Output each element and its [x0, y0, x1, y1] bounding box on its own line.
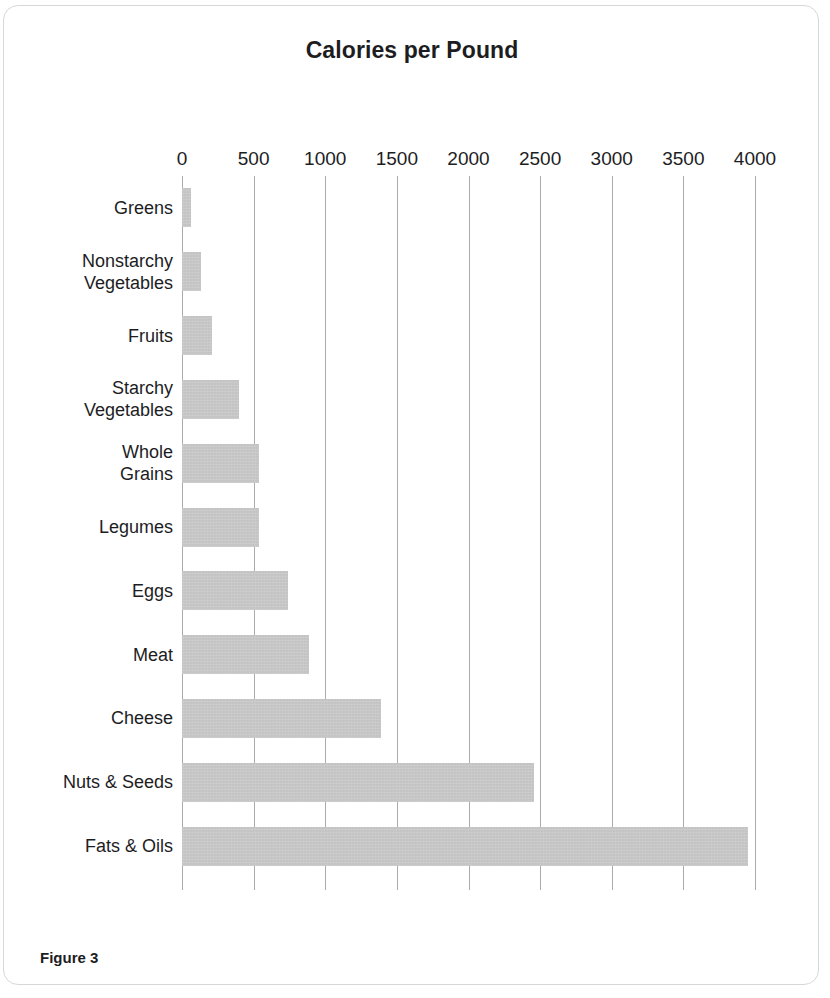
y-axis-category-label-line: Greens	[13, 197, 173, 219]
y-axis-category-label: Cheese	[13, 707, 173, 729]
y-axis-category-label-line: Nonstarchy	[13, 250, 173, 272]
y-axis-category-label: Fruits	[13, 325, 173, 347]
bar	[182, 188, 191, 227]
y-axis-category-label: WholeGrains	[13, 441, 173, 485]
x-axis-tick-label: 2000	[447, 148, 489, 170]
bar	[182, 763, 534, 802]
y-axis-category-label: Meat	[13, 644, 173, 666]
bar	[182, 827, 748, 866]
y-axis-category-label: NonstarchyVegetables	[13, 250, 173, 294]
x-axis-tick-label: 1000	[304, 148, 346, 170]
x-axis-tick-label: 3500	[662, 148, 704, 170]
bar	[182, 444, 259, 483]
figure-caption: Figure 3	[40, 949, 98, 966]
bar	[182, 635, 309, 674]
bar	[182, 699, 381, 738]
x-axis-tick-label: 3000	[591, 148, 633, 170]
bar	[182, 508, 259, 547]
y-axis-category-label-line: Whole	[13, 441, 173, 463]
bar	[182, 252, 201, 291]
gridline-3000	[612, 176, 613, 890]
y-axis-category-label-line: Grains	[13, 463, 173, 485]
y-axis-category-label-line: Eggs	[13, 580, 173, 602]
gridline-2500	[540, 176, 541, 890]
y-axis-category-label: Fats & Oils	[13, 835, 173, 857]
y-axis-category-label-line: Fats & Oils	[13, 835, 173, 857]
x-axis-tick-label: 4000	[734, 148, 776, 170]
bar	[182, 571, 288, 610]
y-axis-category-label-line: Vegetables	[13, 399, 173, 421]
y-axis-category-label: Legumes	[13, 516, 173, 538]
y-axis-category-label-line: Meat	[13, 644, 173, 666]
y-axis-category-label-line: Vegetables	[13, 272, 173, 294]
y-axis-category-label: StarchyVegetables	[13, 377, 173, 421]
figure-card: Calories per Pound 050010001500200025003…	[3, 5, 819, 985]
y-axis-category-label-line: Cheese	[13, 707, 173, 729]
x-axis-tick-label: 1500	[376, 148, 418, 170]
gridline-4000	[755, 176, 756, 890]
bar-chart-plot-area: 05001000150020002500300035004000GreensNo…	[4, 6, 819, 985]
x-axis-tick-label: 0	[177, 148, 188, 170]
y-axis-category-label-line: Starchy	[13, 377, 173, 399]
bar	[182, 380, 239, 419]
x-axis-tick-label: 500	[238, 148, 270, 170]
gridline-3500	[683, 176, 684, 890]
bar	[182, 316, 212, 355]
y-axis-category-label: Greens	[13, 197, 173, 219]
y-axis-category-label-line: Legumes	[13, 516, 173, 538]
y-axis-category-label-line: Fruits	[13, 325, 173, 347]
y-axis-category-label-line: Nuts & Seeds	[13, 771, 173, 793]
y-axis-category-label: Eggs	[13, 580, 173, 602]
y-axis-category-label: Nuts & Seeds	[13, 771, 173, 793]
x-axis-tick-label: 2500	[519, 148, 561, 170]
